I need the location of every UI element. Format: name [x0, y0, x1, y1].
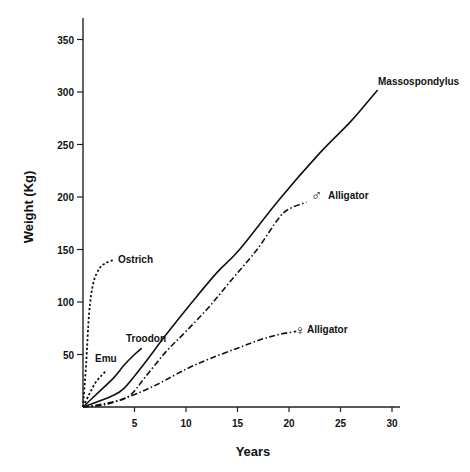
- x-axis-label: Years: [236, 444, 271, 459]
- x-tick-label: 25: [335, 418, 347, 429]
- y-ticks: 50100150200250300350: [57, 35, 83, 361]
- y-tick-label: 300: [57, 87, 74, 98]
- y-tick-label: 350: [57, 35, 74, 46]
- growth-curve-chart: 50100150200250300350 51015202530 Weight …: [0, 0, 470, 472]
- axes: 50100150200250300350 51015202530: [57, 18, 400, 429]
- x-ticks: 51015202530: [132, 407, 398, 429]
- y-tick-label: 150: [57, 245, 74, 256]
- y-tick-label: 50: [63, 350, 75, 361]
- series-alligator: [83, 202, 307, 407]
- label-troodon: Troodon: [126, 333, 166, 344]
- x-tick-label: 15: [232, 418, 244, 429]
- y-tick-label: 200: [57, 192, 74, 203]
- label-male-alligator: Alligator: [328, 190, 369, 201]
- series-alligator: [83, 331, 296, 407]
- x-tick-label: 10: [180, 418, 192, 429]
- label-female-alligator: Alligator: [307, 324, 348, 335]
- series-ostrich: [83, 260, 113, 407]
- female-symbol-icon: ♀: [295, 322, 306, 338]
- y-tick-label: 100: [57, 297, 74, 308]
- male-symbol-icon: ♂: [311, 186, 322, 203]
- y-axis-label: Weight (Kg): [21, 171, 36, 244]
- x-tick-label: 20: [283, 418, 295, 429]
- x-tick-label: 30: [386, 418, 398, 429]
- label-emu: Emu: [95, 353, 117, 364]
- series-lines: [83, 90, 378, 407]
- y-tick-label: 250: [57, 140, 74, 151]
- label-massospondylus: Massospondylus: [378, 76, 460, 87]
- label-ostrich: Ostrich: [118, 254, 153, 265]
- series-massospondylus: [83, 90, 378, 407]
- x-tick-label: 5: [132, 418, 138, 429]
